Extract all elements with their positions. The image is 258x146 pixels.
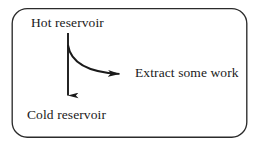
node-label-cold-reservoir: Cold reservoir — [27, 108, 106, 122]
work-branch-arrow — [68, 45, 120, 74]
diagram-canvas: Hot reservoir Cold reservoir Extract som… — [0, 0, 258, 146]
node-label-extract-some-work: Extract some work — [135, 66, 239, 80]
node-label-hot-reservoir: Hot reservoir — [31, 16, 104, 30]
